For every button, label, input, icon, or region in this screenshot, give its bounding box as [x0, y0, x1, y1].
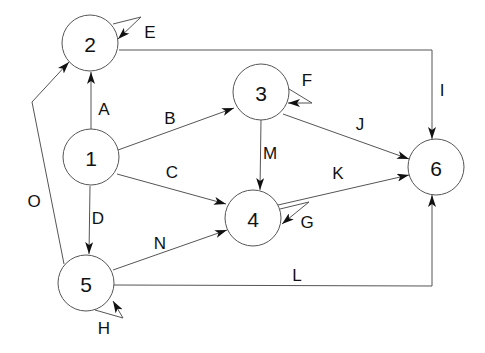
- node-3: 3: [233, 64, 289, 120]
- edge-label-a: A: [98, 100, 110, 119]
- edge-label-k: K: [332, 164, 344, 183]
- edge-label-n: N: [154, 234, 166, 253]
- node-5: 5: [58, 255, 114, 311]
- graph-diagram: 123456 ABCDEFGHIJKLMNO: [0, 0, 485, 353]
- edge-label-g: G: [300, 213, 313, 232]
- edge-label-l: L: [292, 266, 301, 285]
- edge-label-m: M: [263, 144, 277, 163]
- edge-label-c: C: [166, 163, 178, 182]
- node-label: 4: [247, 208, 259, 231]
- graph-svg: 123456 ABCDEFGHIJKLMNO: [0, 0, 485, 353]
- node-label: 6: [430, 157, 442, 180]
- node-label: 5: [80, 273, 92, 296]
- edge-d-arrow: [89, 186, 90, 254]
- edge-label-i: I: [440, 81, 445, 100]
- edge-label-h: H: [98, 319, 110, 338]
- nodes-layer: 123456: [58, 15, 464, 311]
- edge-label-f: F: [302, 71, 312, 90]
- node-2: 2: [62, 15, 118, 71]
- edge-n-arrow: [113, 230, 227, 270]
- node-1: 1: [63, 129, 119, 185]
- node-label: 3: [255, 82, 267, 105]
- edge-label-d: D: [92, 209, 104, 228]
- node-label: 1: [85, 147, 97, 170]
- edge-m-arrow: [260, 120, 261, 190]
- node-4: 4: [225, 190, 281, 246]
- edge-label-o: O: [27, 192, 40, 211]
- node-6: 6: [408, 139, 464, 195]
- edge-label-j: J: [356, 115, 365, 134]
- edge-label-e: E: [144, 23, 155, 42]
- edge-label-b: B: [164, 109, 175, 128]
- node-label: 2: [84, 33, 96, 56]
- edge-b-arrow: [118, 108, 234, 150]
- edge-j-arrow: [283, 114, 409, 159]
- edge-f-arrow: [288, 89, 312, 103]
